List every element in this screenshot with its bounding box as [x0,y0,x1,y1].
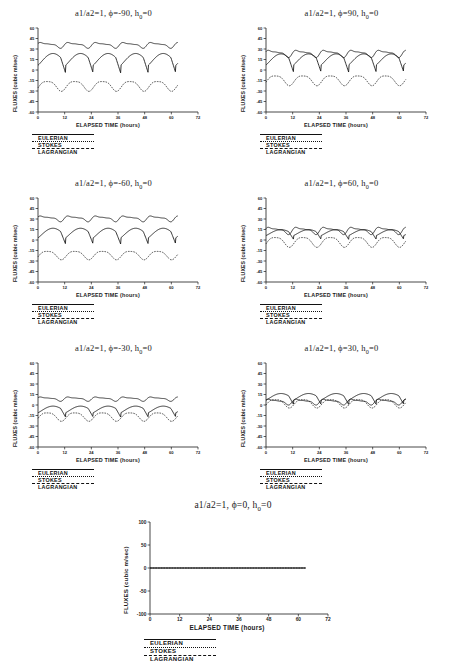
plot-area: FLUXES (cubic m/sec)100500-50-1000122436… [108,518,358,626]
series-lagrangian [266,76,406,86]
svg-text:24: 24 [317,285,322,290]
svg-text:60: 60 [258,195,263,200]
svg-text:0: 0 [260,237,263,242]
y-axis-label: FLUXES (cubic m/sec) [12,225,18,282]
svg-text:60: 60 [169,450,174,455]
svg-text:36: 36 [116,285,121,290]
svg-text:24: 24 [317,450,322,455]
plot-area: FLUXES (cubic m/sec)604530150-15-30-45-6… [228,194,455,294]
chart-panel: a1/a2=1, ϕ=-90, h0=0FLUXES (cubic m/sec)… [0,8,227,176]
svg-text:15: 15 [30,227,35,232]
svg-text:60: 60 [169,115,174,120]
svg-text:-60: -60 [256,279,263,284]
svg-text:45: 45 [30,206,35,211]
legend: EULERIANSTOKESLAGRANGIAN [32,304,227,325]
svg-text:-30: -30 [256,258,263,263]
y-axis-label: FLUXES (cubic m/sec) [240,55,246,112]
chart-panel: a1/a2=1, ϕ=60, h0=0FLUXES (cubic m/sec)6… [228,178,455,346]
svg-text:36: 36 [116,450,121,455]
panel-title: a1/a2=1, ϕ=-30, h0=0 [0,343,227,355]
svg-text:30: 30 [258,381,263,386]
legend-item: STOKES [32,311,227,318]
series-eulerian [266,229,406,239]
svg-text:-100: -100 [137,611,147,616]
legend-label: LAGRANGIAN [38,319,78,325]
svg-text:60: 60 [258,360,263,365]
chart-panel: a1/a2=1, ϕ=-30, h0=0FLUXES (cubic m/sec)… [0,343,227,511]
svg-text:0: 0 [265,115,268,120]
svg-text:30: 30 [258,46,263,51]
plot-svg: 604530150-15-30-45-600122436486072 [228,359,444,459]
legend-item: LAGRANGIAN [32,148,227,155]
y-axis-label: FLUXES (cubic m/sec) [122,546,129,614]
legend-item: STOKES [260,141,455,148]
svg-text:48: 48 [142,450,147,455]
svg-text:36: 36 [344,115,349,120]
svg-text:-45: -45 [28,99,35,104]
svg-text:0: 0 [32,237,35,242]
svg-text:-30: -30 [256,88,263,93]
svg-text:48: 48 [370,450,375,455]
series-eulerian [38,406,178,417]
svg-text:60: 60 [30,195,35,200]
plot-svg: 604530150-15-30-45-600122436486072 [0,194,216,294]
legend-label: LAGRANGIAN [150,656,194,662]
legend-item: EULERIAN [32,304,227,311]
svg-text:0: 0 [37,450,40,455]
legend: EULERIANSTOKESLAGRANGIAN [144,639,358,663]
svg-text:24: 24 [89,285,94,290]
legend: EULERIANSTOKESLAGRANGIAN [32,469,227,490]
legend: EULERIANSTOKESLAGRANGIAN [32,134,227,155]
svg-text:48: 48 [370,285,375,290]
svg-text:-15: -15 [28,413,35,418]
legend-item: LAGRANGIAN [260,318,455,325]
svg-text:12: 12 [62,450,67,455]
legend-item: STOKES [260,476,455,483]
legend-item: LAGRANGIAN [260,483,455,490]
svg-text:48: 48 [142,115,147,120]
svg-text:36: 36 [236,617,242,622]
legend-item: EULERIAN [32,134,227,141]
svg-text:12: 12 [62,285,67,290]
chart-panel: a1/a2=1, ϕ=30, h0=0FLUXES (cubic m/sec)6… [228,343,455,511]
svg-text:0: 0 [260,402,263,407]
svg-text:12: 12 [290,285,295,290]
svg-text:48: 48 [266,617,272,622]
plot-svg: 604530150-15-30-45-600122436486072 [228,194,444,294]
svg-text:0: 0 [37,285,40,290]
svg-text:24: 24 [89,450,94,455]
legend-item: LAGRANGIAN [144,655,358,663]
svg-text:-15: -15 [256,78,263,83]
svg-text:24: 24 [89,115,94,120]
svg-text:-60: -60 [256,109,263,114]
legend: EULERIANSTOKESLAGRANGIAN [260,469,455,490]
svg-text:0: 0 [260,67,263,72]
plot-area: FLUXES (cubic m/sec)604530150-15-30-45-6… [0,194,227,294]
svg-text:48: 48 [142,285,147,290]
legend-item: LAGRANGIAN [260,148,455,155]
series-stokes [38,216,178,222]
panel-title: a1/a2=1, ϕ=60, h0=0 [228,178,455,190]
svg-text:60: 60 [30,360,35,365]
svg-text:60: 60 [397,450,402,455]
legend-item: EULERIAN [32,469,227,476]
legend-item: EULERIAN [144,639,358,647]
panel-title: a1/a2=1, ϕ=-60, h0=0 [0,178,227,190]
svg-text:30: 30 [30,216,35,221]
svg-text:-15: -15 [256,248,263,253]
chart-panel: a1/a2=1, ϕ=-60, h0=0FLUXES (cubic m/sec)… [0,178,227,346]
legend-item: STOKES [32,476,227,483]
legend-item: STOKES [260,311,455,318]
series-eulerian [38,53,178,72]
svg-text:45: 45 [258,206,263,211]
svg-text:72: 72 [424,450,429,455]
panel-title: a1/a2=1, ϕ=90, h0=0 [228,8,455,20]
svg-text:30: 30 [258,216,263,221]
svg-text:0: 0 [144,565,147,570]
svg-text:12: 12 [177,617,183,622]
plot-area: FLUXES (cubic m/sec)604530150-15-30-45-6… [228,24,455,124]
svg-text:36: 36 [344,450,349,455]
svg-text:48: 48 [370,115,375,120]
series-eulerian [266,54,406,72]
series-eulerian [38,228,178,244]
